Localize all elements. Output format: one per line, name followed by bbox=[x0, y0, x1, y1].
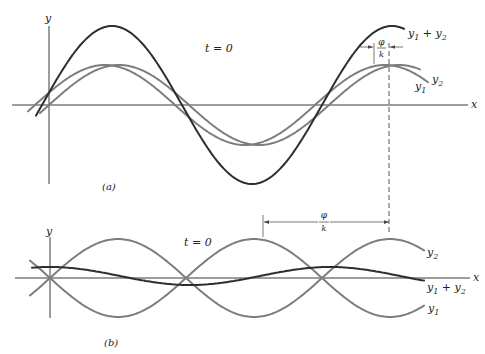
panel-a-y-label: y bbox=[44, 12, 52, 25]
panel-b-x-label: x bbox=[473, 271, 480, 284]
panel-b-label-y1: y1 bbox=[427, 302, 439, 317]
panel-b-label-y2: y2 bbox=[426, 246, 438, 261]
panel-a: y x t = 0 φ k y1 + y2 y2 y1 (a) bbox=[12, 12, 478, 235]
panel-a-x-label: x bbox=[471, 98, 478, 111]
panel-a-caption: (a) bbox=[102, 181, 116, 192]
panel-b-phase-numerator: φ bbox=[321, 210, 328, 220]
panel-a-time-label: t = 0 bbox=[205, 42, 233, 55]
panel-b: y x t = 0 φ k y2 y1 + y2 y1 (b) bbox=[15, 210, 480, 348]
panel-b-time-label: t = 0 bbox=[184, 236, 212, 249]
panel-b-label-sum: y1 + y2 bbox=[426, 281, 466, 296]
wave-superposition-figure: y x t = 0 φ k y1 + y2 y2 y1 (a) y x t = … bbox=[0, 0, 485, 354]
panel-b-phase-denominator: k bbox=[322, 224, 327, 233]
panel-a-phase-denominator: k bbox=[379, 50, 384, 59]
panel-b-wave-sum bbox=[32, 267, 424, 285]
panel-b-caption: (b) bbox=[104, 337, 118, 348]
panel-b-y-label: y bbox=[45, 225, 53, 238]
panel-a-label-y2: y2 bbox=[431, 73, 443, 88]
panel-a-phase-numerator: φ bbox=[378, 37, 385, 47]
panel-a-label-y1: y1 bbox=[414, 80, 426, 95]
panel-a-label-sum: y1 + y2 bbox=[407, 27, 447, 42]
